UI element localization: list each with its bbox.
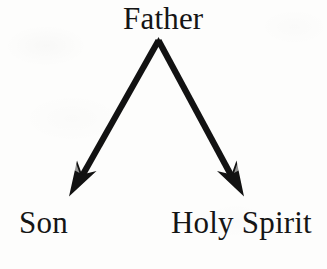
arrow-father-to-son: [69, 41, 159, 197]
node-label-holy-spirit: Holy Spirit: [171, 207, 312, 238]
arrow-father-to-holy-spirit: [159, 41, 245, 197]
trinity-diagram: Father Son Holy Spirit: [0, 0, 327, 269]
node-label-father: Father: [123, 3, 203, 34]
node-label-son: Son: [19, 207, 68, 238]
arrowhead-holy-spirit: [217, 161, 244, 197]
arrowhead-son: [69, 161, 97, 197]
